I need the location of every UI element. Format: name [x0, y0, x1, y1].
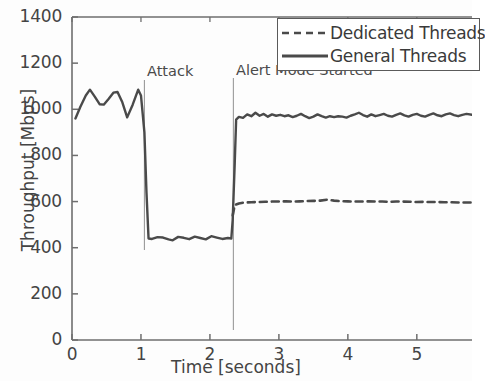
legend-item-dedicated-threads: Dedicated Threads: [278, 21, 479, 44]
solid-line-icon: [278, 46, 330, 66]
legend-label-general-threads: General Threads: [330, 46, 466, 66]
chart-legend: Dedicated Threads General Threads: [277, 18, 480, 71]
series-general-threads: [75, 90, 472, 241]
dashed-line-icon: [278, 23, 330, 43]
y-tick-label: 800: [0, 144, 62, 164]
y-tick-label: 600: [0, 191, 62, 211]
y-tick-label: 1000: [0, 98, 62, 118]
legend-item-general-threads: General Threads: [278, 44, 479, 67]
y-tick-label: 1400: [0, 6, 62, 26]
x-tick-label: 0: [52, 344, 92, 364]
x-tick-label: 3: [259, 344, 299, 364]
x-tick-label: 1: [121, 344, 161, 364]
y-tick-label: 400: [0, 237, 62, 257]
y-tick-label: 200: [0, 283, 62, 303]
x-tick-label: 5: [397, 344, 437, 364]
legend-label-dedicated-threads: Dedicated Threads: [330, 23, 485, 43]
y-tick-label: 1200: [0, 52, 62, 72]
annotation-attack: Attack: [147, 63, 193, 79]
x-tick-label: 4: [328, 344, 368, 364]
x-tick-label: 2: [190, 344, 230, 364]
series-dedicated-threads: [233, 200, 472, 216]
